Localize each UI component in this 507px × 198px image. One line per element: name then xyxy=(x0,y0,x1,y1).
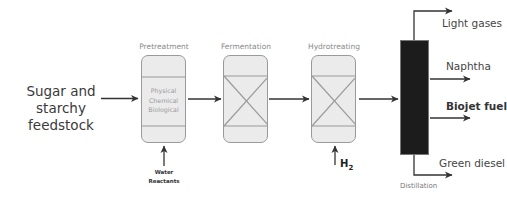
distillation-column xyxy=(400,40,429,155)
method-chemical: Chemical xyxy=(142,96,185,106)
output-light-gases: Light gases xyxy=(442,17,502,29)
feedstock-line-2: starchy feedstock xyxy=(6,100,116,134)
hydrotreating-label: Hydrotreating xyxy=(294,42,374,51)
hydrogen-subscript: 2 xyxy=(348,164,353,172)
pretreatment-label: Pretreatment xyxy=(124,42,204,51)
output-naphtha: Naphtha xyxy=(446,60,491,72)
method-physical: Physical xyxy=(142,86,185,96)
hydrotreating-unit xyxy=(311,55,356,143)
feedstock-line-1: Sugar and xyxy=(6,83,116,100)
pretreatment-inputs: Water Reactants xyxy=(139,168,189,186)
input-water: Water xyxy=(139,168,189,177)
distillation-label: Distillation xyxy=(400,182,437,190)
pretreatment-methods: Physical Chemical Biological xyxy=(142,86,185,115)
input-reactants: Reactants xyxy=(139,177,189,186)
feedstock-label: Sugar and starchy feedstock xyxy=(6,83,116,134)
method-biological: Biological xyxy=(142,105,185,115)
output-green-diesel: Green diesel xyxy=(439,157,505,169)
fermentation-label: Fermentation xyxy=(206,42,286,51)
output-biojet-fuel: Biojet fuel xyxy=(446,100,507,112)
pretreatment-unit: Physical Chemical Biological xyxy=(141,55,186,143)
packed-bed-icon xyxy=(312,56,356,143)
fermentation-unit xyxy=(223,55,268,143)
hydrogen-input: H2 xyxy=(340,158,353,172)
packed-bed-icon xyxy=(224,56,268,143)
